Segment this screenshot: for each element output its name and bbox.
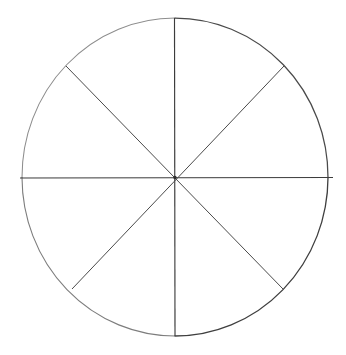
center-point — [173, 176, 176, 179]
eight-sector-circle-figure — [0, 0, 346, 355]
figure-canvas: A plain line drawing of a single circle … — [0, 0, 346, 355]
